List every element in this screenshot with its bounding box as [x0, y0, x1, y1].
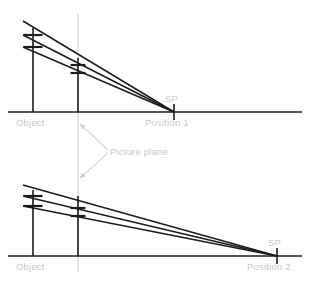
object-label: Object [16, 117, 45, 128]
picture-plane-arrows [80, 124, 108, 178]
position-label: Position 1 [145, 117, 189, 128]
station-point-label: SP [268, 237, 281, 248]
station-point-label: SP [165, 93, 178, 104]
perspective-diagram: ObjectSPPosition 1ObjectSPPosition 2Pict… [0, 0, 310, 283]
diagram-canvas: ObjectSPPosition 1ObjectSPPosition 2Pict… [0, 0, 310, 283]
bottom-sight-line [23, 206, 277, 256]
object-label: Object [16, 261, 45, 272]
position-label: Position 2 [247, 261, 291, 272]
bottom-sight-line [23, 47, 174, 112]
panel-bottom [8, 185, 302, 264]
middle-sight-line [23, 196, 277, 256]
panel-top [8, 21, 302, 120]
middle-sight-line [23, 35, 174, 112]
arrow-up [80, 124, 108, 150]
top-sight-line [23, 185, 277, 256]
top-sight-line [23, 21, 174, 112]
picture-plane-label: Picture plane [110, 146, 168, 157]
labels-group: ObjectSPPosition 1ObjectSPPosition 2Pict… [16, 93, 291, 272]
arrow-down [80, 153, 108, 178]
panels-group [8, 21, 302, 264]
